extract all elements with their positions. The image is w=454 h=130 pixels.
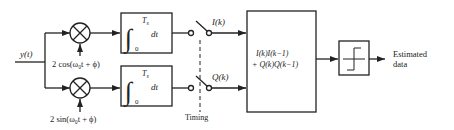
combiner-line2: + Q(k)Q(k−1): [252, 60, 298, 69]
threshold-icon: [343, 48, 365, 70]
output-label-line1: Estimated: [393, 49, 428, 59]
multiplier-bottom-icon: [70, 78, 90, 98]
integrator-top-label: ∫ 0 Ts dt: [123, 16, 159, 54]
output-label-line2: data: [393, 59, 407, 69]
input-label: y(t): [19, 49, 33, 59]
switch-top-icon: [189, 21, 212, 36]
integrator-bottom-label: ∫ 0 Ts dt: [123, 69, 159, 107]
integral-sign-top: ∫: [123, 24, 134, 54]
I-k-label: I(k): [211, 17, 225, 27]
cos-reference-label: 2 cos(ω₀t + ϕ): [52, 59, 100, 69]
sin-reference-label: 2 sin(ω₀t + ϕ): [50, 114, 97, 124]
integral-differential: dt: [151, 82, 159, 92]
integral-upper-limit: Ts: [142, 69, 149, 79]
multiplier-top-icon: [70, 23, 90, 43]
block-diagram: ∫ 0 Ts dt ∫ 0 Ts dt y(t) 2 cos(ω₀t + ϕ) …: [0, 0, 454, 130]
combiner-line1: I(k)I(k−1): [255, 49, 289, 58]
integral-lower-limit: 0: [135, 98, 139, 106]
integral-upper-limit: Ts: [142, 16, 149, 26]
Q-k-label: Q(k): [212, 72, 229, 82]
integral-lower-limit: 0: [135, 45, 139, 53]
timing-label: Timing: [185, 113, 208, 122]
integral-differential: dt: [151, 29, 159, 39]
integral-sign-bottom: ∫: [123, 77, 134, 107]
